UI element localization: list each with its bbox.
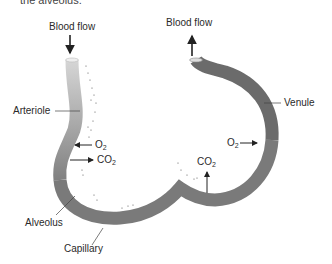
arteriole-label: Arteriole: [13, 105, 50, 116]
venule-opening: [190, 58, 203, 62]
capillary-label: Capillary: [64, 243, 103, 254]
venule-tube: [196, 60, 272, 140]
co2-right-label: CO2: [197, 156, 216, 168]
blood-flow-in-label: Blood flow: [49, 21, 95, 32]
co2-left-label: CO2: [97, 154, 116, 166]
arteriole-opening: [66, 58, 79, 62]
o2-right-label: O2: [227, 137, 239, 149]
alveolus-label: Alveolus: [25, 217, 63, 228]
capillary-tube: [60, 140, 272, 218]
o2-left-label: O2: [95, 139, 107, 151]
venule-label: Venule: [284, 97, 315, 108]
blood-flow-out-label: Blood flow: [166, 17, 212, 28]
arteriole-tube: [60, 60, 77, 180]
